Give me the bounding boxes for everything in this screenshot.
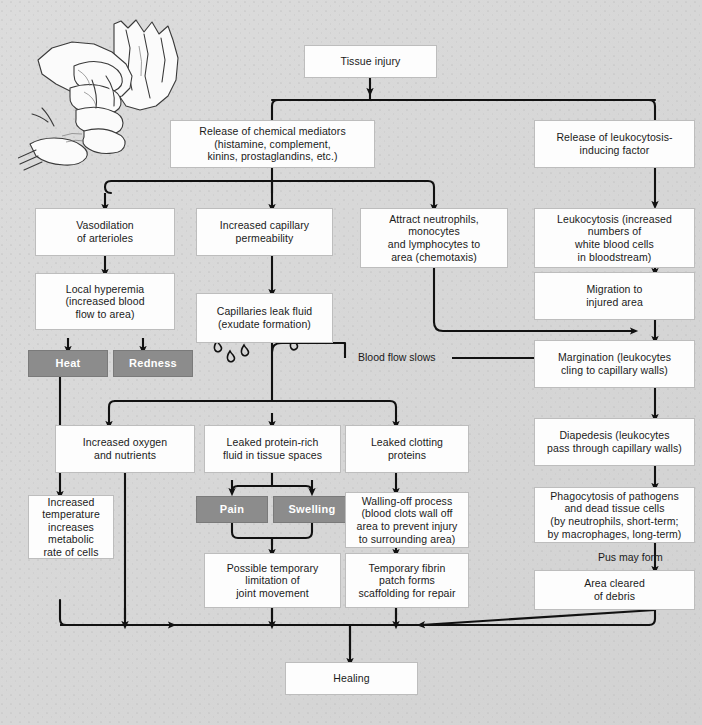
node-area-cleared-of-debris[interactable]: Area cleared of debris bbox=[534, 570, 695, 610]
node-margination[interactable]: Margination (leukocytes cling to capilla… bbox=[534, 340, 695, 388]
edge-label-pus-may-form: Pus may form bbox=[598, 551, 663, 563]
node-swelling[interactable]: Swelling bbox=[273, 496, 351, 523]
node-phagocytosis[interactable]: Phagocytosis of pathogens and dead tissu… bbox=[534, 487, 695, 543]
node-leaked-protein-rich-fluid[interactable]: Leaked protein-rich fluid in tissue spac… bbox=[204, 425, 341, 473]
node-temporary-fibrin-patch[interactable]: Temporary fibrin patch forms scaffolding… bbox=[345, 553, 469, 608]
node-local-hyperemia[interactable]: Local hyperemia (increased blood flow to… bbox=[35, 273, 175, 330]
node-walling-off-process[interactable]: Walling-off process (blood clots wall of… bbox=[345, 492, 469, 548]
node-possible-temporary-limitation[interactable]: Possible temporary limitation of joint m… bbox=[204, 553, 341, 608]
node-healing[interactable]: Healing bbox=[285, 662, 418, 695]
node-redness[interactable]: Redness bbox=[113, 350, 193, 377]
node-release-leukocytosis-factor[interactable]: Release of leukocytosis- inducing factor bbox=[534, 120, 695, 168]
node-leukocytosis[interactable]: Leukocytosis (increased numbers of white… bbox=[534, 208, 695, 268]
node-migration-to-injured-area[interactable]: Migration to injured area bbox=[534, 272, 695, 320]
edge-label-blood-flow-slows: Blood flow slows bbox=[358, 351, 436, 363]
node-leaked-clotting-proteins[interactable]: Leaked clotting proteins bbox=[345, 425, 469, 473]
node-capillaries-leak-fluid[interactable]: Capillaries leak fluid (exudate formatio… bbox=[196, 293, 333, 343]
node-increased-capillary-permeability[interactable]: Increased capillary permeability bbox=[196, 208, 333, 256]
node-attract-neutrophils[interactable]: Attract neutrophils, monocytes and lymph… bbox=[360, 208, 508, 268]
node-increased-oxygen[interactable]: Increased oxygen and nutrients bbox=[55, 425, 195, 473]
node-pain[interactable]: Pain bbox=[196, 496, 268, 523]
node-release-chemical-mediators[interactable]: Release of chemical mediators (histamine… bbox=[170, 120, 375, 168]
node-vasodilation[interactable]: Vasodilation of arterioles bbox=[35, 208, 175, 256]
node-increased-temperature[interactable]: Increased temperature increases metaboli… bbox=[28, 495, 114, 559]
node-tissue-injury[interactable]: Tissue injury bbox=[304, 45, 437, 78]
node-heat[interactable]: Heat bbox=[28, 350, 108, 377]
node-diapedesis[interactable]: Diapedesis (leukocytes pass through capi… bbox=[534, 418, 695, 466]
flowchart-page: Tissue injury Release of chemical mediat… bbox=[0, 0, 702, 725]
